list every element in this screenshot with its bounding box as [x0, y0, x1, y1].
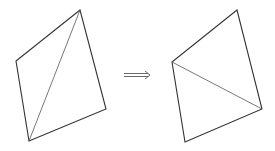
left-quadrilateral	[16, 10, 106, 141]
left-quad-outline	[16, 10, 106, 141]
right-quadrilateral	[172, 10, 262, 142]
right-quad-outline	[172, 10, 262, 142]
implies-arrow-icon	[124, 71, 150, 79]
right-quad-diagonal	[172, 62, 262, 109]
edge-flip-diagram	[0, 0, 275, 151]
